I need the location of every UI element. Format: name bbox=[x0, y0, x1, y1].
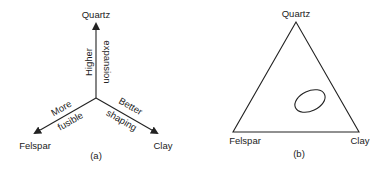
felspar-label-b: Felspar bbox=[229, 135, 261, 146]
ternary-triangle bbox=[233, 22, 359, 132]
felspar-label-a: Felspar bbox=[19, 140, 51, 151]
diagram-canvas: Quartz Felspar Clay (a) Higher expansion… bbox=[0, 0, 386, 170]
caption-a: (a) bbox=[90, 150, 102, 161]
composition-region bbox=[291, 85, 328, 117]
panel-a: Quartz Felspar Clay (a) Higher expansion… bbox=[19, 9, 173, 161]
higher-label: Higher bbox=[83, 48, 94, 76]
quartz-label-a: Quartz bbox=[82, 9, 111, 20]
caption-b: (b) bbox=[293, 148, 305, 159]
clay-label-a: Clay bbox=[153, 140, 172, 151]
panel-b: Quartz Felspar Clay (b) bbox=[229, 8, 370, 159]
quartz-label-b: Quartz bbox=[282, 8, 311, 19]
clay-label-b: Clay bbox=[350, 135, 369, 146]
expansion-label: expansion bbox=[102, 40, 113, 83]
